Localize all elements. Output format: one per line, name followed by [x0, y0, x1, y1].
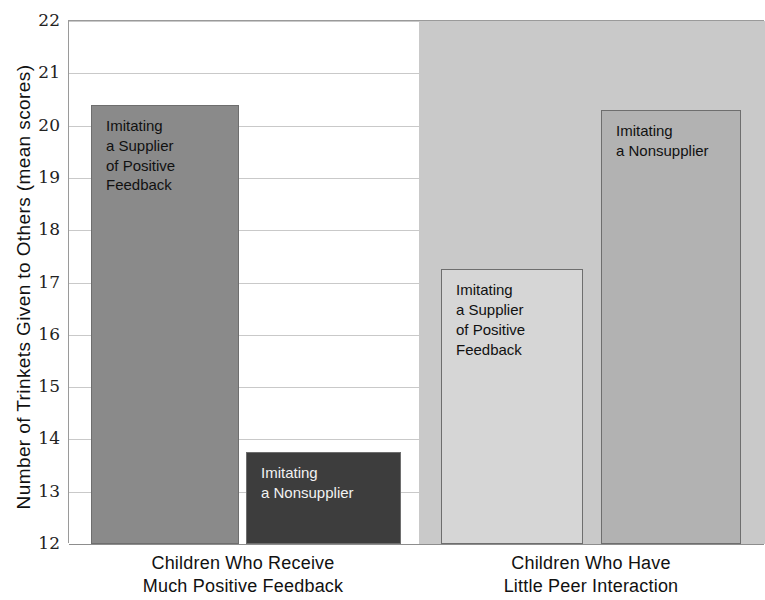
x-axis-category-label: Children Who Have Little Peer Interactio…	[418, 552, 764, 597]
bar: Imitating a Supplier of Positive Feedbac…	[91, 105, 239, 544]
gridline	[69, 544, 764, 545]
y-tick-label: 12	[14, 533, 60, 553]
y-tick-label: 22	[14, 10, 60, 30]
bar-label: Imitating a Supplier of Positive Feedbac…	[456, 280, 525, 360]
gridline	[69, 21, 764, 22]
y-axis-tick-labels: 2221201918171615141312	[8, 0, 60, 600]
y-tick-label: 18	[14, 219, 60, 239]
bar: Imitating a Supplier of Positive Feedbac…	[441, 269, 583, 544]
bar-label: Imitating a Supplier of Positive Feedbac…	[106, 116, 175, 196]
y-tick-label: 16	[14, 324, 60, 344]
x-axis-category-label: Children Who Receive Much Positive Feedb…	[68, 552, 418, 597]
bar: Imitating a Nonsupplier	[246, 452, 401, 544]
gridline	[69, 73, 764, 74]
bar-label: Imitating a Nonsupplier	[616, 121, 709, 161]
y-tick-label: 15	[14, 376, 60, 396]
y-tick-label: 13	[14, 481, 60, 501]
y-tick-label: 20	[14, 115, 60, 135]
y-tick-label: 14	[14, 428, 60, 448]
plot-area: Imitating a Supplier of Positive Feedbac…	[68, 20, 764, 543]
y-tick-label: 17	[14, 272, 60, 292]
bar: Imitating a Nonsupplier	[601, 110, 741, 544]
y-tick-label: 19	[14, 167, 60, 187]
y-tick-label: 21	[14, 62, 60, 82]
bar-label: Imitating a Nonsupplier	[261, 463, 354, 503]
